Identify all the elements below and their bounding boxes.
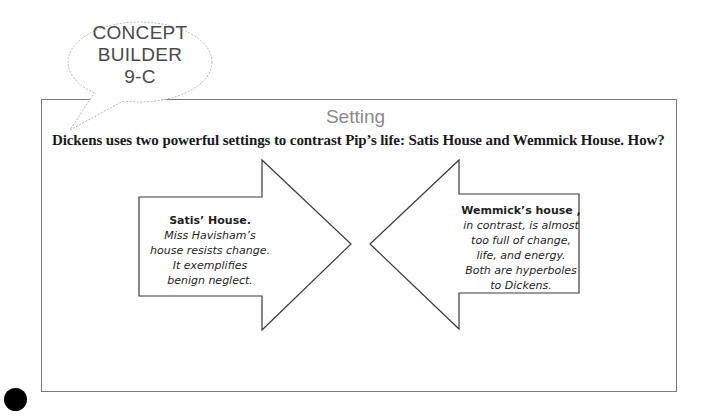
card-heading: Wemmick’s house ,	[460, 203, 582, 218]
wemmick-house-card: Wemmick’s house , in contrast, is almost…	[460, 203, 582, 293]
card-line: Miss Havisham’s	[150, 228, 270, 243]
card-line: benign neglect.	[150, 273, 270, 288]
card-line: life, and energy.	[460, 248, 582, 263]
card-line: house resists change.	[150, 243, 270, 258]
card-line: too full of change,	[460, 233, 582, 248]
card-line: to Dickens.	[460, 278, 582, 293]
arrows-diagram	[0, 0, 711, 418]
bullet-dot-icon	[4, 388, 27, 411]
card-heading: Satis’ House.	[150, 213, 270, 228]
satis-house-card: Satis’ House. Miss Havisham’s house resi…	[150, 213, 270, 288]
card-line: It exemplifies	[150, 258, 270, 273]
card-line: Both are hyperboles	[460, 263, 582, 278]
card-line: in contrast, is almost	[460, 218, 582, 233]
